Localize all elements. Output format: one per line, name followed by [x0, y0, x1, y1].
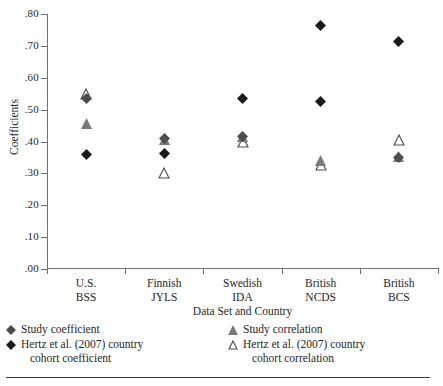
y-tick-label-text: .40 [13, 136, 39, 147]
legend-item-right-1: Study correlation [228, 322, 438, 336]
y-tick-label-text: .10 [13, 231, 39, 242]
y-tick-label: .60 [8, 72, 39, 83]
x-category-label-3: SwedishIDA [203, 277, 281, 304]
y-tick-label-text: .60 [13, 72, 39, 83]
legend-item-right-2: Hertz et al. (2007) countrycohort correl… [228, 337, 438, 365]
x-category-line2: IDA [203, 291, 281, 305]
x-category-line1: British [383, 277, 414, 289]
y-tick-label: .30 [8, 167, 39, 178]
y-tick-label-text: .80 [13, 8, 39, 19]
y-tick-label-text: .30 [13, 167, 39, 178]
legend-label: Hertz et al. (2007) country [21, 338, 143, 350]
legend-open-triangle-icon [228, 340, 238, 350]
chart-legend: Study coefficientHertz et al. (2007) cou… [4, 322, 439, 372]
x-category-label-2: FinnishJYLS [125, 277, 203, 304]
x-category-label-4: BritishNCDS [282, 277, 360, 304]
y-tick-label: .70 [8, 40, 39, 51]
plot-area [47, 14, 438, 269]
legend-column-right: Study correlationHertz et al. (2007) cou… [228, 322, 438, 366]
y-axis-title: Coefficients [8, 87, 20, 167]
x-category-line1: British [305, 277, 336, 289]
legend-label: Study correlation [243, 323, 323, 335]
x-category-label-1: U.S.BSS [47, 277, 125, 304]
legend-label-line2: cohort coefficient [21, 351, 206, 365]
x-tick-mark [438, 268, 439, 274]
y-tick-label: .50 [8, 104, 39, 115]
y-tick-label: .00 [8, 263, 39, 274]
y-tick-label: .40 [8, 136, 39, 147]
x-category-line2: BCS [360, 291, 438, 305]
x-category-line1: U.S. [76, 277, 96, 289]
x-category-line2: JYLS [125, 291, 203, 305]
legend-label-line2: cohort correlation [243, 351, 438, 365]
figure-scatter-chart: Coefficients Data Set and Country .80.70… [0, 0, 443, 386]
y-tick-label-text: .20 [13, 199, 39, 210]
y-tick-label: .10 [8, 231, 39, 242]
y-tick-label: .80 [8, 8, 39, 19]
legend-item-left-2: Hertz et al. (2007) countrycohort coeffi… [6, 337, 206, 365]
legend-label: Hertz et al. (2007) country [243, 338, 365, 350]
legend-label: Study coefficient [21, 323, 100, 335]
legend-filled-triangle-gray-icon [228, 325, 238, 335]
x-category-line2: NCDS [282, 291, 360, 305]
x-axis-title: Data Set and Country [47, 305, 438, 317]
x-category-line1: Swedish [223, 277, 262, 289]
y-tick-label-text: .50 [13, 104, 39, 115]
y-tick-label-text: .00 [13, 263, 39, 274]
x-category-label-5: BritishBCS [360, 277, 438, 304]
x-category-line1: Finnish [147, 277, 182, 289]
legend-filled-diamond-gray-icon [6, 325, 16, 335]
legend-filled-diamond-black-icon [6, 340, 16, 350]
y-tick-label: .20 [8, 199, 39, 210]
y-tick-label-text: .70 [13, 40, 39, 51]
bottom-rule [6, 377, 430, 378]
legend-item-left-1: Study coefficient [6, 322, 206, 336]
legend-column-left: Study coefficientHertz et al. (2007) cou… [6, 322, 206, 366]
x-category-line2: BSS [47, 291, 125, 305]
